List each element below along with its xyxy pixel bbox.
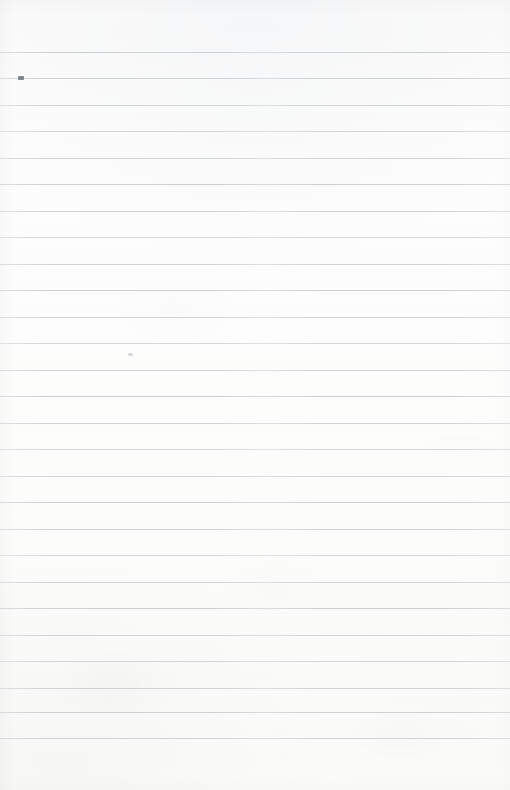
ruled-line (0, 608, 510, 609)
ruled-line (0, 264, 510, 265)
ruled-line (0, 688, 510, 689)
ruled-lines-layer (0, 0, 510, 790)
ruled-line (0, 449, 510, 450)
ruled-line (0, 78, 510, 79)
ruled-line (0, 290, 510, 291)
ink-smudge (18, 76, 24, 80)
ruled-line (0, 52, 510, 53)
ruled-line (0, 582, 510, 583)
ruled-line (0, 370, 510, 371)
ruled-line (0, 529, 510, 530)
ruled-line (0, 131, 510, 132)
bottom-margin-area (0, 739, 510, 790)
ruled-line (0, 423, 510, 424)
ruled-line (0, 502, 510, 503)
ruled-line (0, 396, 510, 397)
ruled-line (0, 555, 510, 556)
faint-speck (128, 353, 133, 356)
ruled-line (0, 712, 510, 713)
ruled-line (0, 661, 510, 662)
ruled-line (0, 158, 510, 159)
ruled-line (0, 317, 510, 318)
ruled-line (0, 343, 510, 344)
ruled-line (0, 105, 510, 106)
ruled-line (0, 184, 510, 185)
ruled-line (0, 211, 510, 212)
ruled-line (0, 237, 510, 238)
lined-paper-page (0, 0, 510, 790)
ruled-line (0, 476, 510, 477)
ruled-line (0, 635, 510, 636)
